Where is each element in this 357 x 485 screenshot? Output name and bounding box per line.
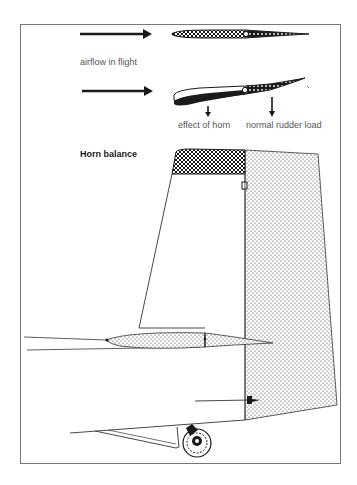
tailwheel-icon — [183, 424, 211, 457]
airflow-arrow-top-head — [143, 29, 152, 39]
fin-outline — [139, 174, 205, 328]
airfoil-deflected — [174, 78, 309, 106]
effect-of-horn-label: effect of horn — [178, 120, 230, 130]
rudder-surface — [245, 150, 337, 420]
horn-balance-surface — [172, 149, 245, 174]
tailplane-section — [24, 333, 273, 350]
airflow-arrow-bottom-head — [144, 86, 153, 96]
horn-balance-title: Horn balance — [80, 149, 137, 159]
top-hinge-icon — [242, 182, 247, 189]
normal-rudder-load-label: normal rudder load — [246, 120, 322, 130]
hinge-icon — [244, 32, 249, 37]
lower-control-horn — [195, 400, 250, 401]
tailwheel-strut-inner — [108, 430, 176, 444]
airfoil-neutral — [172, 30, 309, 38]
horn-balance-diagram: airflow in flight effect of horn normal … — [0, 0, 357, 485]
horn-effect-arrow-head — [205, 112, 211, 117]
rudder-load-arrow-head — [269, 111, 275, 117]
airflow-label: airflow in flight — [80, 57, 138, 67]
